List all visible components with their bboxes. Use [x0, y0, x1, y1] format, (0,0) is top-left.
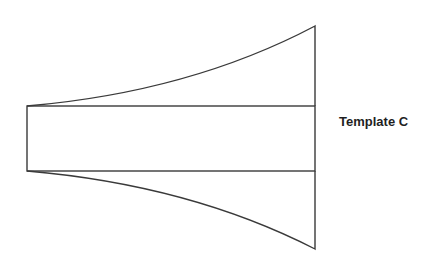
center-rectangle — [27, 106, 315, 171]
template-diagram: Template C — [0, 0, 438, 266]
template-label: Template C — [339, 114, 408, 129]
bottom-wing — [27, 171, 315, 249]
top-wing — [27, 26, 315, 106]
template-shape — [0, 0, 438, 266]
